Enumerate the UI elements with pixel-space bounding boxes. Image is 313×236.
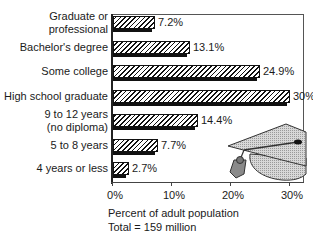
x-axis-label: Percent of adult population xyxy=(108,207,239,219)
category-label: Bachelor's degree xyxy=(20,41,108,54)
value-label: 13.1% xyxy=(193,41,224,53)
x-tick-label: 10% xyxy=(163,189,185,201)
category-label: High school graduate xyxy=(4,90,108,103)
value-label: 7.7% xyxy=(161,139,186,151)
bar xyxy=(113,41,190,54)
value-label: 7.2% xyxy=(158,16,183,28)
graduation-cap-icon xyxy=(222,118,312,190)
x-tick-label: 0% xyxy=(107,189,123,201)
x-tick-label: 20% xyxy=(222,189,244,201)
x-tick xyxy=(112,182,113,186)
bar xyxy=(113,162,129,175)
category-label: Some college xyxy=(41,65,108,78)
category-label: 9 to 12 years(no diploma) xyxy=(44,108,108,134)
category-label: Graduate orprofessional xyxy=(49,10,108,36)
category-label: 5 to 8 years xyxy=(51,139,108,152)
bar xyxy=(113,139,158,152)
x-tick xyxy=(171,182,172,186)
value-label: 2.7% xyxy=(132,162,157,174)
value-label: 30% xyxy=(293,90,313,102)
bar xyxy=(113,65,260,78)
bar xyxy=(113,114,198,127)
category-label: 4 years or less xyxy=(36,162,108,175)
footnote-total: Total = 159 million xyxy=(108,221,196,233)
bar xyxy=(113,90,290,103)
value-label: 24.9% xyxy=(263,65,294,77)
bar xyxy=(113,16,155,29)
x-tick-label: 30% xyxy=(281,189,303,201)
